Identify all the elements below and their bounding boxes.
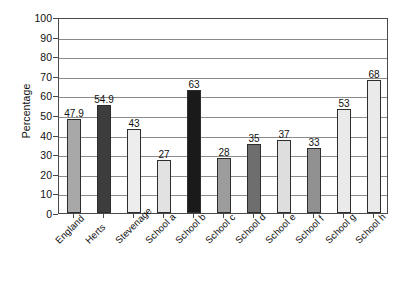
bar-value-label: 27 — [158, 149, 169, 160]
bar-value-label: 37 — [278, 129, 289, 140]
bar-value-label: 47.9 — [64, 108, 83, 119]
bar — [247, 144, 261, 213]
bar — [187, 90, 201, 213]
plot-area: 47.954.9432763283537335368 — [58, 18, 388, 214]
gridline — [59, 78, 387, 79]
y-tick-label: 80 — [40, 51, 52, 63]
bar-value-label: 54.9 — [94, 94, 113, 105]
bar-value-label: 63 — [188, 79, 199, 90]
y-tick-label: 90 — [40, 32, 52, 44]
y-tick-label: 0 — [46, 208, 52, 220]
bar — [337, 109, 351, 213]
bar — [157, 160, 171, 213]
y-tick-label: 20 — [40, 169, 52, 181]
bar-value-label: 53 — [338, 98, 349, 109]
y-tick-mark — [53, 214, 58, 215]
bar — [307, 148, 321, 213]
x-tick-mark — [103, 214, 104, 218]
bar — [217, 158, 231, 213]
y-tick-label: 10 — [40, 188, 52, 200]
bar-value-label: 33 — [308, 137, 319, 148]
bar-value-label: 68 — [368, 69, 379, 80]
bar — [97, 105, 111, 213]
y-tick-label: 40 — [40, 130, 52, 142]
bar-chart: Percentage 0102030405060708090100 47.954… — [0, 0, 408, 282]
y-tick-label: 100 — [34, 12, 52, 24]
y-tick-label: 30 — [40, 149, 52, 161]
bar-value-label: 28 — [218, 147, 229, 158]
gridline — [59, 39, 387, 40]
y-tick-label: 50 — [40, 110, 52, 122]
bar — [67, 119, 81, 213]
gridline — [59, 58, 387, 59]
bar-value-label: 35 — [248, 133, 259, 144]
y-tick-label: 70 — [40, 71, 52, 83]
bar — [127, 129, 141, 213]
bar — [367, 80, 381, 213]
bar — [277, 140, 291, 213]
bar-value-label: 43 — [128, 118, 139, 129]
y-tick-label: 60 — [40, 90, 52, 102]
